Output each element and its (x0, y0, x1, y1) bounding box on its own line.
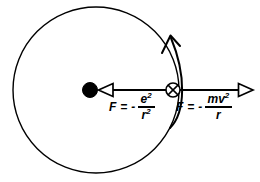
physics-figure: F = - e2 r2 F = - mv2 r (0, 0, 260, 182)
centripetal-force-numerator: mv2 (205, 93, 233, 106)
coulomb-force-label: F = - e2 r2 (109, 93, 155, 121)
diagram-canvas (0, 0, 260, 182)
centripetal-force-numerator-base: mv (208, 92, 225, 106)
nucleus (83, 83, 98, 98)
centripetal-force-arrowhead-icon (239, 84, 254, 97)
centripetal-force-lead: F = - (176, 101, 203, 113)
coulomb-force-denominator-exponent: 2 (146, 107, 150, 116)
coulomb-force-numerator-exponent: 2 (147, 91, 151, 100)
centripetal-force-fraction: mv2 r (205, 93, 233, 121)
coulomb-force-numerator: e2 (138, 93, 155, 106)
coulomb-force-denominator: r2 (138, 109, 155, 122)
centripetal-force-denominator-base: r (216, 108, 221, 122)
centripetal-force-numerator-exponent: 2 (225, 91, 229, 100)
coulomb-force-fraction: e2 r2 (138, 93, 155, 121)
centripetal-force-label: F = - mv2 r (176, 93, 232, 121)
coulomb-force-lead: F = - (109, 101, 136, 113)
centripetal-force-denominator: r (205, 109, 233, 122)
